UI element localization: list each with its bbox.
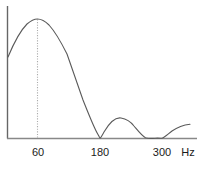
- x-tick-label-300: 300: [148, 146, 176, 158]
- x-axis-unit-label: Hz: [176, 146, 200, 158]
- frequency-response-chart: 60 180 300 Hz: [0, 0, 208, 170]
- plot-area: [0, 0, 208, 170]
- response-curve: [8, 19, 190, 138]
- x-tick-label-180: 180: [86, 146, 114, 158]
- x-tick-label-60: 60: [24, 146, 52, 158]
